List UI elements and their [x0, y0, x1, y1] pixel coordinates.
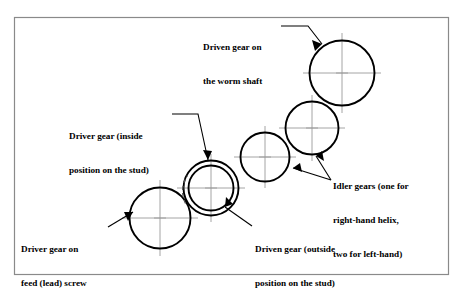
label-line: Driver gear (inside	[69, 131, 149, 142]
label-line: Idler gears (one for	[333, 181, 409, 192]
label-driver-gear-feed-screw: Driver gear on feed (lead) screw	[21, 222, 87, 292]
label-idler-gears: Idler gears (one for right-hand helix, t…	[333, 159, 409, 282]
label-driver-gear-inside-stud: Driver gear (inside position on the stud…	[69, 109, 149, 199]
label-line: the worm shaft	[203, 76, 262, 87]
label-line: position on the stud)	[69, 165, 149, 176]
label-line: right-hand helix,	[333, 215, 409, 226]
label-line: feed (lead) screw	[21, 278, 87, 289]
label-driven-gear-worm-shaft: Driven gear on the worm shaft	[203, 20, 262, 110]
label-line: two for left-hand)	[333, 249, 409, 260]
label-line: Driver gear on	[21, 244, 87, 255]
label-line: Driven gear on	[203, 42, 262, 53]
label-driven-gear-outside-stud: Driven gear (outside position on the stu…	[255, 222, 335, 292]
label-line: Driven gear (outside	[255, 244, 335, 255]
label-line: position on the stud)	[255, 278, 335, 289]
